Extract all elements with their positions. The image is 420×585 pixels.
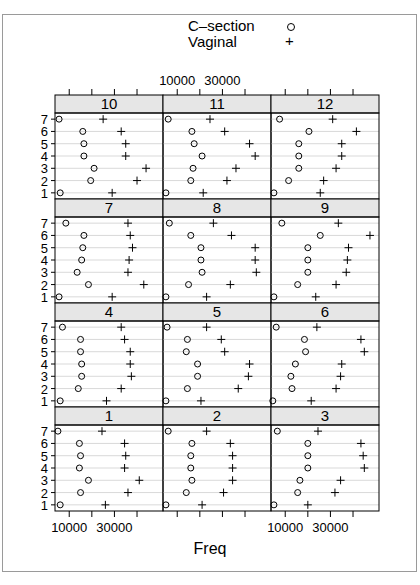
- dotplot-lattice: 1011127894561237654321765432176543217654…: [0, 0, 420, 585]
- vaginal-point: [246, 360, 254, 368]
- vaginal-point: [117, 385, 125, 393]
- vaginal-point: [312, 293, 320, 301]
- vaginal-point: [203, 427, 211, 435]
- vaginal-point: [331, 489, 339, 497]
- panel-strip-label: 6: [321, 303, 329, 320]
- panel-2: 2: [163, 407, 271, 511]
- vaginal-point: [98, 427, 106, 435]
- x-tick-label-top: 30000: [204, 73, 240, 88]
- vaginal-point: [140, 281, 148, 289]
- vaginal-point: [320, 177, 328, 185]
- vaginal-point: [316, 189, 324, 197]
- vaginal-point: [221, 127, 229, 135]
- panel-11: 11: [163, 95, 271, 199]
- vaginal-point: [223, 177, 231, 185]
- vaginal-point: [122, 140, 130, 148]
- vaginal-point: [221, 348, 229, 356]
- panel-7: 7: [55, 199, 163, 303]
- panel-10: 10: [55, 95, 163, 199]
- vaginal-point: [332, 281, 340, 289]
- vaginal-point: [142, 164, 150, 172]
- vaginal-point: [332, 164, 340, 172]
- vaginal-point: [103, 397, 111, 405]
- vaginal-point: [126, 360, 134, 368]
- vaginal-point: [226, 439, 234, 447]
- y-tick-label: 1: [41, 498, 48, 513]
- vaginal-point: [226, 281, 234, 289]
- vaginal-point: [251, 152, 259, 160]
- vaginal-point: [329, 115, 337, 123]
- panel-4: 4: [55, 303, 163, 407]
- vaginal-point: [343, 256, 351, 264]
- x-axis-title: Freq: [0, 540, 420, 558]
- vaginal-point: [121, 335, 129, 343]
- vaginal-point: [307, 397, 315, 405]
- vaginal-point: [121, 439, 129, 447]
- vaginal-point: [124, 268, 132, 276]
- vaginal-point: [117, 323, 125, 331]
- panel-strip-label: 5: [213, 303, 221, 320]
- vaginal-point: [337, 476, 345, 484]
- panel-strip-label: 8: [213, 199, 221, 216]
- y-tick-label: 1: [41, 290, 48, 305]
- vaginal-point: [135, 476, 143, 484]
- vaginal-point: [203, 293, 211, 301]
- vaginal-point: [229, 476, 237, 484]
- vaginal-point: [220, 489, 228, 497]
- vaginal-point: [360, 464, 368, 472]
- panel-strip-label: 2: [213, 407, 221, 424]
- vaginal-point: [227, 231, 235, 239]
- vaginal-point: [121, 464, 129, 472]
- x-tick-label-top: 10000: [159, 73, 195, 88]
- vaginal-point: [304, 501, 312, 509]
- vaginal-point: [126, 231, 134, 239]
- vaginal-point: [332, 385, 340, 393]
- vaginal-point: [133, 177, 141, 185]
- y-tick-label: 1: [41, 186, 48, 201]
- vaginal-point: [99, 115, 107, 123]
- panel-strip-label: 11: [209, 95, 225, 112]
- panel-strip-label: 10: [101, 95, 118, 112]
- panel-1: 1: [55, 407, 163, 511]
- vaginal-point: [342, 268, 350, 276]
- vaginal-point: [209, 219, 217, 227]
- panel-5: 5: [163, 303, 271, 407]
- vaginal-point: [244, 372, 252, 380]
- vaginal-point: [338, 152, 346, 160]
- panel-strip-label: 12: [317, 95, 334, 112]
- vaginal-point: [334, 219, 342, 227]
- x-tick-label-bottom: 30000: [96, 520, 132, 535]
- panel-6: 6: [270, 303, 379, 407]
- panel-8: 8: [163, 199, 271, 303]
- vaginal-point: [108, 189, 116, 197]
- vaginal-point: [117, 127, 125, 135]
- vaginal-point: [313, 323, 321, 331]
- vaginal-point: [128, 244, 136, 252]
- vaginal-point: [229, 464, 237, 472]
- panel-3: 3: [271, 407, 379, 511]
- vaginal-point: [251, 244, 259, 252]
- panel-strip-label: 3: [321, 407, 329, 424]
- vaginal-point: [217, 335, 225, 343]
- vaginal-point: [251, 256, 259, 264]
- vaginal-point: [338, 360, 346, 368]
- vaginal-point: [206, 115, 214, 123]
- vaginal-point: [203, 323, 211, 331]
- vaginal-point: [229, 452, 237, 460]
- panel-12: 12: [271, 95, 379, 199]
- vaginal-point: [232, 164, 240, 172]
- x-tick-label-bottom: 30000: [312, 520, 348, 535]
- vaginal-point: [122, 452, 130, 460]
- panel-strip-label: 7: [105, 199, 113, 216]
- vaginal-point: [359, 452, 367, 460]
- vaginal-point: [357, 335, 365, 343]
- vaginal-point: [234, 385, 242, 393]
- vaginal-point: [360, 348, 368, 356]
- panel-9: 9: [271, 199, 379, 303]
- vaginal-point: [352, 127, 360, 135]
- vaginal-point: [124, 489, 132, 497]
- x-tick-label-bottom: 10000: [267, 520, 303, 535]
- vaginal-point: [344, 244, 352, 252]
- vaginal-point: [101, 501, 109, 509]
- vaginal-point: [337, 372, 345, 380]
